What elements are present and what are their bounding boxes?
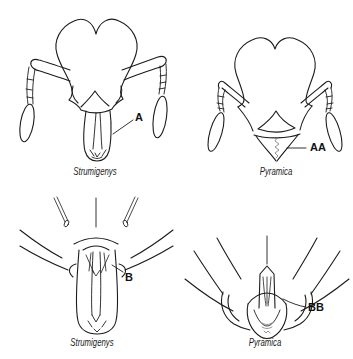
head-side-left [20, 230, 68, 270]
antenna-right-scape [122, 56, 166, 80]
panel-strumigenys-mandibles: B Strumigenys [0, 180, 176, 359]
mandible-inner-arc [254, 310, 280, 326]
scape-outer-right [311, 251, 340, 294]
mandibles [247, 304, 287, 339]
antenna-left-club [17, 103, 36, 143]
panel-pyramica-mandibles: BB Pyramica [176, 180, 353, 359]
mandible-inner-lines [88, 252, 106, 332]
scape-right [124, 197, 138, 222]
mandible-inner-lines [90, 113, 106, 159]
scape-inner-left [217, 238, 241, 279]
caption-pyramica-head: Pyramica [229, 166, 323, 177]
leader-line-b [112, 265, 123, 272]
antenna-right-funiculus [325, 88, 333, 112]
antenna-right-funiculus [159, 64, 166, 94]
mandibles [84, 111, 111, 161]
antenna-left-funiculus [217, 88, 225, 112]
antenna-right-club [151, 95, 170, 138]
scape-left [54, 197, 68, 222]
caption-strumigenys-head: Strumigenys [48, 166, 142, 177]
scape-inner-right [293, 238, 317, 279]
callout-b: B [125, 271, 133, 283]
callout-bb: BB [308, 301, 324, 313]
caption-strumigenys-mandibles: Strumigenys [45, 337, 139, 348]
antenna-right-club [323, 111, 346, 153]
labrum-inner [263, 277, 271, 306]
trigger-hairs [86, 253, 109, 276]
leader-line-a [113, 120, 133, 134]
antennal-flange-left [72, 86, 78, 103]
antenna-left-funiculus [26, 67, 35, 104]
head-outline [56, 19, 137, 113]
gena-left [238, 107, 253, 131]
condyle-left [69, 264, 76, 277]
clypeus [258, 111, 295, 132]
pyramica-head-drawing [176, 0, 353, 180]
mandible-serration [275, 138, 279, 158]
gena-right [300, 106, 312, 130]
anterior-margin [254, 134, 300, 138]
head-outline [235, 38, 315, 107]
head-side-right [125, 230, 173, 270]
pyramica-mandible-drawing [176, 180, 353, 359]
lateral-lobe-left [221, 292, 250, 330]
clypeal-arc-outer [74, 238, 118, 244]
strumigenys-mandible-drawing [0, 180, 176, 359]
mandibles [76, 250, 117, 334]
panel-pyramica-head: AA Pyramica [176, 0, 353, 180]
figure-plate: A Strumigenys AA Pyramica [0, 0, 353, 359]
caption-pyramica-mandibles: Pyramica [218, 337, 312, 348]
strumigenys-head-drawing [0, 0, 176, 180]
callout-aa: AA [310, 141, 326, 153]
callout-a: A [135, 111, 143, 123]
scape-outer-left [194, 251, 223, 294]
clypeal-arc-inner [83, 246, 109, 250]
head-side-left [185, 279, 233, 311]
clypeus [81, 91, 109, 107]
panel-strumigenys-head: A Strumigenys [0, 0, 176, 180]
antenna-left-club [205, 111, 228, 153]
